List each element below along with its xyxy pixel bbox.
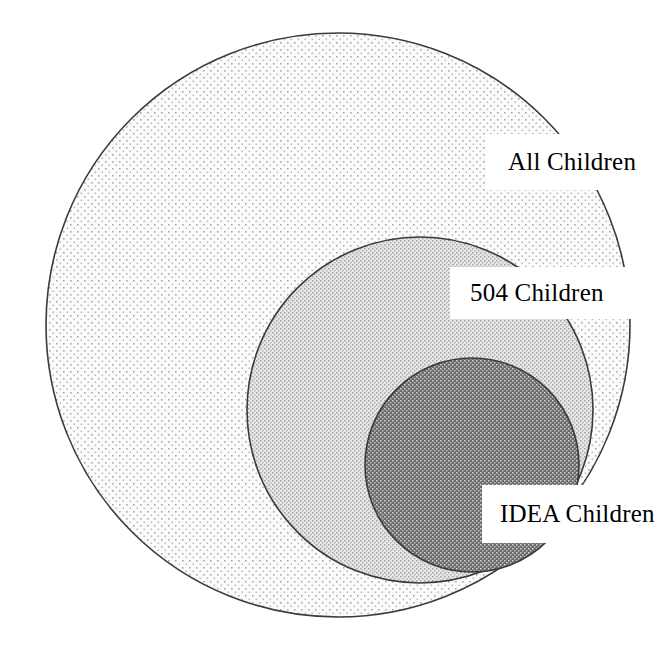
- set-label-504-children-text: 504 Children: [470, 279, 604, 307]
- set-label-idea-children: IDEA Children: [482, 485, 672, 543]
- venn-diagram: All Children 504 Children IDEA Children: [0, 0, 672, 651]
- set-label-idea-children-text: IDEA Children: [500, 500, 655, 528]
- set-label-504-children: 504 Children: [450, 267, 640, 319]
- venn-diagram-canvas: [0, 0, 672, 651]
- set-label-all-children: All Children: [486, 134, 672, 190]
- set-label-all-children-text: All Children: [508, 148, 636, 176]
